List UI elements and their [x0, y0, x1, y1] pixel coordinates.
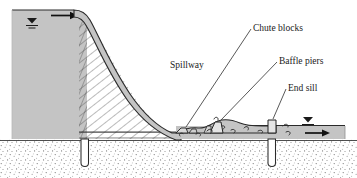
downstream-cutoff-wall [268, 139, 276, 167]
upstream-cutoff-wall [81, 139, 89, 167]
spillway-stilling-basin-figure: Spillway Chute blocks Baffle piers End s… [0, 0, 357, 178]
label-baffle-piers: Baffle piers [279, 56, 324, 66]
label-spillway: Spillway [170, 60, 204, 70]
diagram-canvas: Spillway Chute blocks Baffle piers End s… [0, 0, 357, 178]
foundation-soil [0, 139, 357, 178]
end-sill [268, 120, 276, 133]
reservoir [12, 10, 87, 139]
label-end-sill: End sill [288, 83, 318, 93]
label-chute-blocks: Chute blocks [253, 23, 303, 33]
